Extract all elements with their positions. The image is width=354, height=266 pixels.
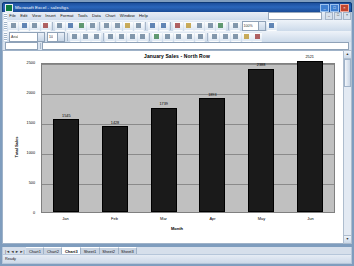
scroll-down-icon[interactable]: ▼ — [344, 235, 351, 243]
menu-item-tools[interactable]: Tools — [76, 13, 90, 19]
bar[interactable] — [151, 108, 177, 212]
window-title: Microsoft Excel - salesfigs — [15, 5, 320, 10]
toolbar-separator — [170, 22, 171, 30]
menu-item-view[interactable]: View — [30, 13, 43, 19]
help-icon[interactable] — [267, 21, 277, 31]
data-label: 1893 — [188, 93, 237, 97]
menu-item-window[interactable]: Window — [118, 13, 137, 19]
decrease-decimal-icon[interactable] — [195, 32, 205, 42]
font-color-icon[interactable] — [252, 32, 262, 42]
fill-color-icon[interactable] — [242, 32, 252, 42]
print-icon[interactable] — [55, 21, 65, 31]
doc-close-button[interactable]: × — [343, 12, 351, 20]
sort-ascending-icon[interactable] — [194, 21, 204, 31]
x-tick-label: Jan — [41, 216, 90, 221]
copy-icon[interactable] — [112, 21, 122, 31]
zoom-combo[interactable]: 100% — [242, 21, 266, 31]
chart[interactable]: January Sales - North Row Total Sales Mo… — [3, 51, 351, 243]
font-name-combo[interactable]: Arial — [9, 32, 45, 42]
help-question-input[interactable] — [268, 12, 322, 20]
percent-icon[interactable] — [163, 32, 173, 42]
font-size-value: 10 — [48, 35, 53, 39]
bar-cell: 2388 — [237, 64, 286, 212]
hyperlink-icon[interactable] — [173, 21, 183, 31]
open-icon[interactable] — [19, 21, 29, 31]
toolbar-separator — [67, 33, 68, 41]
name-box[interactable] — [5, 42, 38, 50]
currency-icon[interactable] — [152, 32, 162, 42]
data-label: 1739 — [139, 102, 188, 106]
save-icon[interactable] — [30, 21, 40, 31]
close-button[interactable]: × — [340, 4, 349, 12]
bar[interactable] — [53, 119, 79, 212]
menu-bar: File Edit View Insert Format Tools Data … — [2, 12, 352, 20]
menu-item-help[interactable]: Help — [137, 13, 150, 19]
paste-icon[interactable] — [123, 21, 133, 31]
data-label: 1428 — [91, 121, 140, 125]
increase-indent-icon[interactable] — [220, 32, 230, 42]
chevron-down-icon[interactable] — [37, 33, 44, 41]
chevron-down-icon[interactable] — [57, 33, 64, 41]
borders-icon[interactable] — [231, 32, 241, 42]
print-preview-icon[interactable] — [66, 21, 76, 31]
help-question-area: _ □ × — [268, 12, 351, 20]
spelling-icon[interactable] — [76, 21, 86, 31]
menu-item-chart[interactable]: Chart — [103, 13, 118, 19]
toolbar-grip-standard[interactable] — [4, 21, 7, 30]
menu-item-insert[interactable]: Insert — [43, 13, 58, 19]
bar[interactable] — [248, 69, 274, 212]
new-icon[interactable] — [8, 21, 18, 31]
chevron-down-icon[interactable] — [258, 22, 265, 30]
menu-item-format[interactable]: Format — [58, 13, 76, 19]
sort-descending-icon[interactable] — [205, 21, 215, 31]
bar-cell: 1893 — [188, 64, 237, 212]
cut-icon[interactable] — [101, 21, 111, 31]
chart-wizard-icon[interactable] — [216, 21, 226, 31]
redo-icon[interactable] — [159, 21, 169, 31]
decrease-indent-icon[interactable] — [209, 32, 219, 42]
menu-item-edit[interactable]: Edit — [18, 13, 30, 19]
bar[interactable] — [102, 126, 128, 212]
align-center-icon[interactable] — [116, 32, 126, 42]
bar-cell: 1739 — [139, 64, 188, 212]
autosum-icon[interactable] — [184, 21, 194, 31]
minimize-button[interactable]: _ — [320, 4, 329, 12]
status-bar: Ready — [2, 254, 352, 264]
toolbar-separator — [228, 22, 229, 30]
formula-input[interactable] — [42, 42, 349, 50]
underline-icon[interactable] — [91, 32, 101, 42]
toolbar-separator — [145, 22, 146, 30]
plot-area[interactable]: 154514281739189323882521 — [41, 63, 335, 213]
toolbar-grip-formatting[interactable] — [4, 32, 7, 41]
excel-window: Microsoft Excel - salesfigs _ □ × File E… — [0, 0, 354, 266]
menu-item-file[interactable]: File — [7, 13, 18, 19]
research-icon[interactable] — [87, 21, 97, 31]
scroll-up-icon[interactable]: ▲ — [344, 51, 351, 59]
permission-icon[interactable] — [41, 21, 51, 31]
toolbar-separator — [99, 22, 100, 30]
maximize-button[interactable]: □ — [330, 4, 339, 12]
bar[interactable] — [199, 98, 225, 212]
increase-decimal-icon[interactable] — [184, 32, 194, 42]
menu-item-data[interactable]: Data — [90, 13, 103, 19]
toolbar-separator — [103, 33, 104, 41]
drawing-icon[interactable] — [230, 21, 240, 31]
font-size-combo[interactable]: 10 — [47, 32, 65, 42]
align-left-icon[interactable] — [105, 32, 115, 42]
formula-bar — [2, 42, 352, 50]
y-tick-label: 0 — [3, 211, 37, 215]
undo-icon[interactable] — [148, 21, 158, 31]
bar-cell: 1545 — [42, 64, 91, 212]
merge-center-icon[interactable] — [138, 32, 148, 42]
vertical-scrollbar[interactable]: ▲ ▼ — [343, 50, 352, 244]
comma-icon[interactable] — [174, 32, 184, 42]
scrollbar-thumb[interactable] — [344, 59, 351, 87]
align-right-icon[interactable] — [127, 32, 137, 42]
format-painter-icon[interactable] — [134, 21, 144, 31]
formula-separator — [40, 43, 41, 49]
bold-icon[interactable] — [70, 32, 80, 42]
italic-icon[interactable] — [81, 32, 91, 42]
doc-restore-button[interactable]: □ — [334, 12, 342, 20]
doc-minimize-button[interactable]: _ — [325, 12, 333, 20]
bar[interactable] — [297, 61, 323, 212]
